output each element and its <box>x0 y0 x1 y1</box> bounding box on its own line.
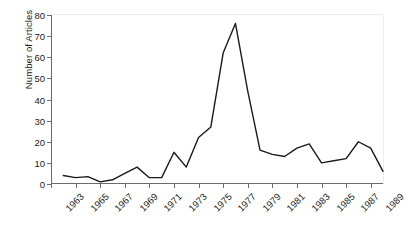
x-tick-mark <box>346 184 347 188</box>
x-tick-mark <box>272 184 273 188</box>
x-tick-label: 1965 <box>88 191 111 214</box>
x-tick-label: 1975 <box>211 191 234 214</box>
x-tick-label: 1963 <box>63 191 86 214</box>
y-tick-mark <box>47 78 51 79</box>
y-tick-label: 30 <box>5 115 45 126</box>
y-tick-label: 20 <box>5 136 45 147</box>
plot-area <box>51 15 383 184</box>
y-tick-mark <box>47 142 51 143</box>
y-tick-mark <box>47 121 51 122</box>
y-tick-mark <box>47 163 51 164</box>
x-tick-label: 1989 <box>383 191 406 214</box>
x-tick-label: 1977 <box>235 191 258 214</box>
x-tick-mark <box>51 184 52 188</box>
y-tick-label: 40 <box>5 94 45 105</box>
x-tick-mark <box>76 184 77 188</box>
y-tick-label: 50 <box>5 73 45 84</box>
x-tick-label: 1967 <box>112 191 135 214</box>
y-tick-mark <box>47 100 51 101</box>
x-tick-mark <box>371 184 372 188</box>
y-tick-label: 10 <box>5 157 45 168</box>
x-tick-label: 1987 <box>358 191 381 214</box>
x-tick-label: 1981 <box>285 191 308 214</box>
x-tick-mark <box>199 184 200 188</box>
x-tick-label: 1985 <box>334 191 357 214</box>
x-tick-mark <box>248 184 249 188</box>
plot-right-edge <box>383 14 384 184</box>
x-tick-mark <box>223 184 224 188</box>
x-tick-label: 1983 <box>309 191 332 214</box>
x-tick-label: 1969 <box>137 191 160 214</box>
x-tick-label: 1973 <box>186 191 209 214</box>
y-tick-mark <box>47 57 51 58</box>
x-tick-mark <box>149 184 150 188</box>
x-tick-mark <box>125 184 126 188</box>
x-tick-label: 1971 <box>162 191 185 214</box>
y-tick-label: 60 <box>5 52 45 63</box>
x-tick-mark <box>100 184 101 188</box>
y-tick-label: 70 <box>5 31 45 42</box>
y-tick-mark <box>47 15 51 16</box>
y-tick-label: 80 <box>5 10 45 21</box>
x-tick-mark <box>297 184 298 188</box>
x-tick-mark <box>174 184 175 188</box>
y-tick-mark <box>47 36 51 37</box>
y-tick-label: 0 <box>5 179 45 190</box>
x-tick-mark <box>322 184 323 188</box>
x-tick-label: 1979 <box>260 191 283 214</box>
